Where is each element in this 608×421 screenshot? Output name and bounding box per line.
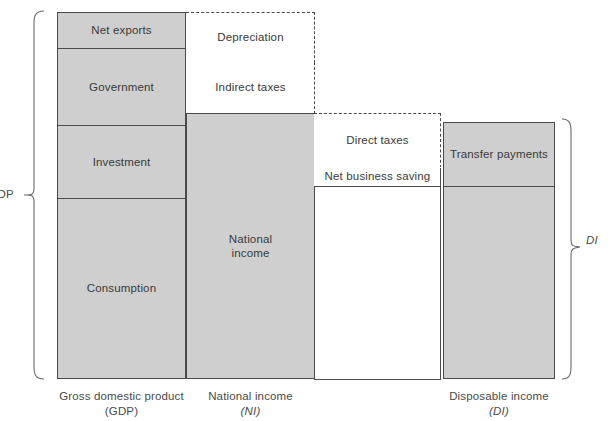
diagram-canvas: GDP DI Net exports Government Investment…: [0, 0, 608, 421]
gdp-segment-net-exports[interactable]: Net exports: [57, 12, 186, 49]
axis-label-di-line2: (DI): [437, 404, 561, 419]
national-income-label-line2: income: [232, 246, 270, 260]
depreciation-right-edge: [314, 12, 315, 63]
depreciation-top-edge: [186, 12, 315, 13]
di-deduction-direct-taxes[interactable]: Direct taxes: [314, 113, 441, 168]
di-brace-label: DI: [586, 234, 598, 246]
direct-taxes-right-edge: [440, 113, 441, 168]
di-gap-bottom-edge: [314, 379, 441, 380]
di-brace: [560, 118, 586, 380]
axis-label-ni: National income (NI): [186, 389, 315, 419]
indirect-taxes-right-edge: [314, 62, 315, 114]
national-income-block[interactable]: National income: [186, 113, 315, 379]
gdp-segment-consumption[interactable]: Consumption: [57, 198, 186, 379]
di-deduction-net-business-saving[interactable]: Net business saving: [314, 167, 441, 186]
gdp-segment-government[interactable]: Government: [57, 48, 186, 126]
axis-label-gdp-line1: Gross domestic product: [57, 389, 186, 404]
gdp-segment-investment[interactable]: Investment: [57, 125, 186, 199]
gdp-brace-label: GDP: [0, 188, 14, 200]
axis-label-gdp: Gross domestic product (GDP): [57, 389, 186, 419]
di-gap-right-edge: [440, 186, 441, 379]
direct-taxes-top-edge: [314, 113, 441, 114]
net-business-saving-bottom-edge: [314, 186, 441, 187]
net-business-saving-right-edge: [440, 168, 441, 187]
axis-label-gdp-line2: (GDP): [57, 404, 186, 419]
di-addition-transfer-payments[interactable]: Transfer payments: [443, 122, 555, 187]
national-income-label-line1: National: [229, 232, 272, 246]
gdp-brace: [20, 10, 46, 380]
ni-deduction-indirect-taxes[interactable]: Indirect taxes: [186, 62, 315, 113]
ni-deduction-depreciation[interactable]: Depreciation: [186, 12, 315, 63]
axis-label-ni-line1: National income: [186, 389, 315, 404]
axis-label-di-line1: Disposable income: [437, 389, 561, 404]
disposable-income-block[interactable]: [443, 186, 555, 379]
axis-label-ni-line2: (NI): [186, 404, 315, 419]
axis-label-di: Disposable income (DI): [437, 389, 561, 419]
